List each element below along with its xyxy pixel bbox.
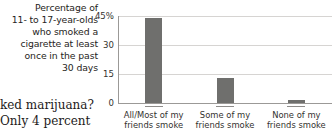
y-axis-tick-label: 30 — [88, 41, 114, 50]
bar — [217, 78, 234, 103]
caption-line: 30 days — [0, 62, 98, 74]
plot-area — [118, 16, 332, 103]
body-text-line: ked marijuana? — [0, 98, 100, 114]
figure-panel: Percentage of 11- to 17-year-olds who sm… — [0, 0, 332, 135]
caption-line: cigarette at least — [0, 38, 98, 50]
bar — [145, 18, 162, 103]
chart-caption: Percentage of 11- to 17-year-olds who sm… — [0, 2, 98, 75]
x-axis-tick-label: None of myfriends smoke — [251, 110, 332, 131]
x-axis-tick-mark — [216, 106, 234, 107]
x-axis-tick-mark — [287, 106, 305, 107]
x-axis-line — [118, 103, 332, 104]
caption-line: Percentage of — [0, 2, 98, 14]
body-text-line: Only 4 percent — [0, 114, 100, 130]
caption-line: who smoked a — [0, 26, 98, 38]
bar — [288, 100, 305, 103]
y-axis-line — [118, 16, 119, 104]
y-axis-tick-label: 0 — [88, 99, 114, 108]
caption-line: once in the past — [0, 50, 98, 62]
y-axis-tick-label: 45% — [88, 12, 114, 21]
body-text: ked marijuana? Only 4 percent — [0, 98, 100, 129]
x-axis-tick-label-line: friends smoke — [251, 120, 332, 130]
x-axis-tick-mark — [145, 106, 163, 107]
caption-line: 11- to 17-year-olds — [0, 14, 98, 26]
y-axis-tick-label: 15 — [88, 70, 114, 79]
x-axis-tick-label-line: None of my — [251, 110, 332, 120]
gridline — [118, 16, 332, 17]
